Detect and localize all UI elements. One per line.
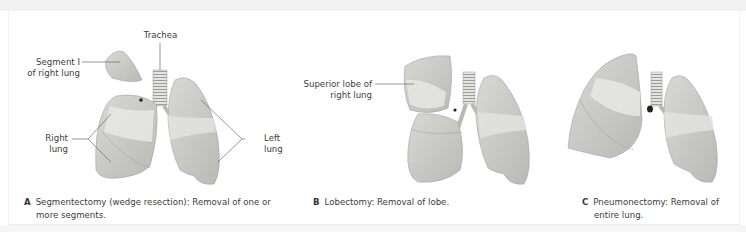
caption-c-text-line1: Pneumonectomy: Removal of [593, 197, 719, 207]
label-superior-lobe-line2: right lung [296, 90, 372, 101]
caption-c: CPneumonectomy: Removal of entire lung. [582, 196, 742, 221]
label-right-lung-line2: lung [30, 144, 68, 155]
caption-a-letter: A [24, 197, 31, 207]
label-segment-i-line2: of right lung [20, 68, 80, 79]
label-left-lung-line2: lung [264, 144, 294, 155]
panel-c-illustration [568, 54, 717, 183]
caption-c-letter: C [582, 197, 588, 207]
label-right-lung-line1: Right [30, 133, 68, 144]
panel-b-illustration [404, 56, 529, 185]
label-trachea: Trachea [138, 30, 183, 41]
label-superior-lobe-line1: Superior lobe of [296, 79, 372, 90]
label-segment-i-line1: Segment I [20, 57, 80, 68]
caption-a-text-line2: more segments. [36, 210, 106, 220]
caption-a: ASegmentectomy (wedge resection): Remova… [24, 196, 294, 221]
label-left-lung-line1: Left [264, 133, 294, 144]
caption-a-text-line1: Segmentectomy (wedge resection): Removal… [36, 197, 271, 207]
caption-b-text: Lobectomy: Removal of lobe. [325, 197, 450, 207]
caption-b: BLobectomy: Removal of lobe. [313, 196, 513, 209]
caption-c-text-line2: entire lung. [594, 210, 643, 220]
caption-b-letter: B [313, 197, 320, 207]
panel-a-illustration [96, 51, 220, 184]
